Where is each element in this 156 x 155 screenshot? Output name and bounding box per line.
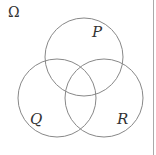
set-label-r: R xyxy=(116,110,128,128)
venn-diagram: Ω PQR xyxy=(0,0,156,155)
set-label-q: Q xyxy=(30,110,42,128)
set-label-p: P xyxy=(91,23,103,41)
universe-label: Ω xyxy=(8,4,20,20)
set-circle-p xyxy=(45,18,123,96)
set-circle-r xyxy=(65,59,143,137)
